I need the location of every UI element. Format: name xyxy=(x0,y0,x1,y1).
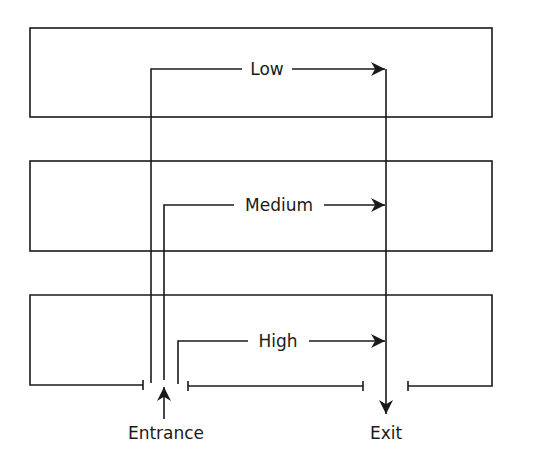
label-entrance: Entrance xyxy=(128,423,204,443)
label-exit: Exit xyxy=(370,423,403,443)
label-low: Low xyxy=(250,59,284,79)
path-medium xyxy=(164,205,385,380)
label-medium: Medium xyxy=(245,195,313,215)
label-high: High xyxy=(258,331,297,351)
diagram-canvas: Low Medium High Entrance Exit xyxy=(0,0,545,463)
